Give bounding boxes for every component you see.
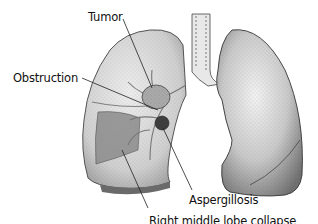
tumor-label: Tumor	[88, 12, 123, 24]
lungs-illustration	[0, 0, 318, 224]
trachea	[192, 14, 220, 86]
obstruction-label: Obstruction	[13, 73, 78, 85]
aspergilloma	[155, 116, 169, 130]
right-middle-lobe-label: Right middle lobe collapse	[149, 216, 296, 224]
left-lung	[217, 30, 303, 196]
aspergillosis-label: Aspergillosis	[189, 195, 258, 207]
right-lung	[83, 30, 186, 194]
